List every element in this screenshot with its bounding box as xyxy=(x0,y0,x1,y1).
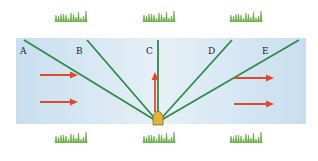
direction-label-c: C xyxy=(146,47,153,56)
diagram-canvas xyxy=(0,0,318,161)
grass-icon xyxy=(230,11,262,22)
grass-icon xyxy=(55,11,87,22)
grass-icon xyxy=(230,132,262,143)
river-crossing-diagram: ABCDE xyxy=(0,0,318,161)
grass-icon xyxy=(55,132,87,143)
direction-label-d: D xyxy=(208,47,215,56)
direction-label-b: B xyxy=(76,47,83,56)
direction-label-a: A xyxy=(20,47,27,56)
grass-icon xyxy=(143,11,175,22)
boat-icon xyxy=(153,111,163,125)
direction-label-e: E xyxy=(262,47,269,56)
grass-icon xyxy=(143,132,175,143)
